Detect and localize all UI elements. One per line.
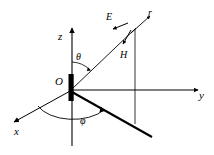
E-vector-arrow xyxy=(113,23,128,29)
theta-arc xyxy=(72,62,90,70)
r-vector-label: r xyxy=(148,7,152,18)
dipole-antenna xyxy=(69,74,74,101)
spherical-coordinate-diagram: z y x O θ φ r E H xyxy=(0,0,214,155)
H-vector xyxy=(123,30,131,44)
phi-arc xyxy=(38,106,104,119)
y-axis-label: y xyxy=(198,89,204,101)
z-axis-label: z xyxy=(57,30,63,42)
theta-angle-label: θ xyxy=(76,51,81,62)
diagram-canvas: z y x O θ φ r E H xyxy=(0,0,214,155)
H-vector-label: H xyxy=(119,49,128,60)
x-axis-line xyxy=(14,90,72,122)
origin-label: O xyxy=(55,75,63,87)
E-vector xyxy=(113,23,128,29)
r-vector-arrow xyxy=(131,16,150,33)
H-vector-arrow xyxy=(123,30,131,44)
phi-angle-label: φ xyxy=(80,115,86,126)
E-vector-label: E xyxy=(105,11,112,22)
x-axis xyxy=(14,90,72,122)
r-vector xyxy=(72,16,150,89)
x-axis-label: x xyxy=(13,125,19,137)
